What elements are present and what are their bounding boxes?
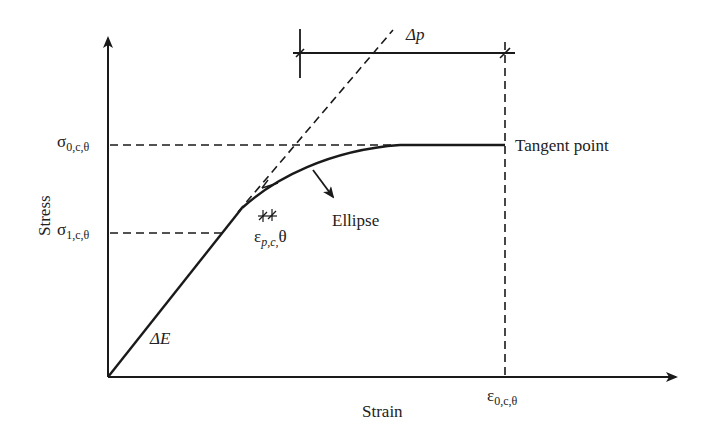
y-axis-label: Stress: [36, 195, 53, 236]
ellipse-curve: [242, 145, 400, 208]
ellipse-arrow: [313, 170, 333, 197]
ellipse-label: Ellipse: [332, 212, 379, 229]
sigma1-label: σ1,c,θ: [57, 221, 89, 241]
tangent-dashed-line: [238, 30, 393, 212]
epsp-marker: [258, 209, 277, 222]
sigma0-label: σ0,c,θ: [57, 133, 89, 153]
eps0-label: ε0,c,θ: [487, 387, 517, 407]
tangent-point-label: Tangent point: [515, 137, 609, 154]
epsp-label: εp,c,θ: [254, 228, 287, 248]
x-axis-label: Strain: [362, 403, 403, 420]
delta-e-label: ΔE: [150, 330, 170, 347]
delta-p-label: Δp: [406, 26, 424, 43]
